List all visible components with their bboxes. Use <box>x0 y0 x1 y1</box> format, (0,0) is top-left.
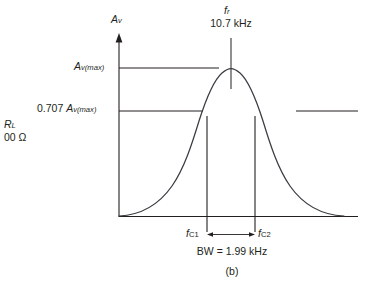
load-resistance-subscript: L <box>12 121 16 130</box>
y-axis-title: Av <box>111 14 122 25</box>
resonant-frequency-value: 10.7 kHz <box>203 18 259 29</box>
y-axis-title-subscript: v <box>118 16 122 25</box>
load-resistance-value: 00 Ω <box>4 131 26 144</box>
y-axis <box>116 33 123 217</box>
frequency-response-figure: Av Av(max) 0.707 Av(max) RL 00 Ω fr 10.7… <box>0 0 372 288</box>
lower-cutoff-subscript: C1 <box>189 230 199 239</box>
av-max-label: Av(max) <box>74 61 104 72</box>
lower-cutoff-label: fC1 <box>186 228 199 239</box>
resonant-frequency-label: fr <box>224 5 229 16</box>
half-power-subscript: v(max) <box>73 105 96 114</box>
figure-caption: (b) <box>177 266 287 277</box>
bandwidth-label: BW = 1.99 kHz <box>177 246 287 257</box>
half-power-coefficient: 0.707 <box>37 102 66 114</box>
av-max-subscript: v(max) <box>81 63 104 72</box>
response-curve-plot <box>0 0 372 288</box>
load-resistance-symbol-row: RL <box>4 118 26 131</box>
resonant-frequency-subscript: r <box>227 7 230 16</box>
y-axis-title-symbol: A <box>111 13 118 25</box>
load-resistance-symbol: R <box>4 118 12 130</box>
bandwidth-arrow <box>207 232 255 237</box>
upper-cutoff-label: fC2 <box>258 228 271 239</box>
response-curve <box>119 69 344 217</box>
half-power-label: 0.707 Av(max) <box>37 103 96 114</box>
upper-cutoff-subscript: C2 <box>261 230 271 239</box>
av-max-symbol: A <box>74 60 81 72</box>
load-resistance-label: RL 00 Ω <box>4 118 26 144</box>
